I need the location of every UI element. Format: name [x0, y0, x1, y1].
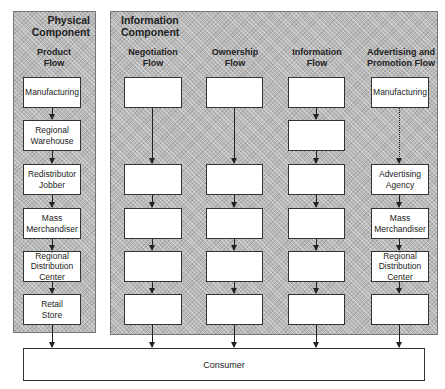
- product-retail-store-box: Retail Store: [23, 294, 81, 325]
- information-box: [288, 251, 345, 282]
- arrow-down: [399, 195, 400, 207]
- arrow-down: [52, 239, 53, 250]
- information-box: [288, 77, 345, 108]
- arrow-down: [52, 195, 53, 207]
- negotiation-box: [124, 294, 182, 325]
- product-mass-merchandiser-box: Mass Merchandiser: [23, 208, 81, 239]
- arrow-down: [399, 282, 400, 293]
- arrow-down: [152, 239, 153, 250]
- ownership-flow-header: Ownership Flow: [200, 47, 270, 69]
- arrow-down: [52, 325, 53, 347]
- negotiation-box: [124, 164, 182, 195]
- advertising-box: [371, 294, 429, 325]
- negotiation-box: [124, 251, 182, 282]
- ownership-box: [206, 77, 263, 108]
- consumer-label: Consumer: [203, 360, 245, 370]
- product-flow-header: Product Flow: [14, 47, 94, 69]
- arrow-down: [316, 151, 317, 163]
- product-manufacturing-box: Manufacturing: [23, 77, 81, 108]
- advertising-promotion-flow-header: Advertising and Promotion Flow: [362, 47, 440, 69]
- arrow-down: [234, 108, 235, 163]
- product-redistributor-jobber-box: Redistributor Jobber: [23, 164, 81, 195]
- advertising-regional-distribution-center-box: Regional Distribution Center: [371, 251, 429, 282]
- arrow-down: [234, 239, 235, 250]
- ownership-box: [206, 164, 263, 195]
- arrow-down: [234, 325, 235, 347]
- advertising-agency-box: Advertising Agency: [371, 164, 429, 195]
- information-box: [288, 208, 345, 239]
- arrow-down: [316, 195, 317, 207]
- information-box: [288, 164, 345, 195]
- ownership-box: [206, 208, 263, 239]
- ownership-box: [206, 294, 263, 325]
- arrow-down: [399, 325, 400, 347]
- arrow-down-dotted: [399, 108, 400, 163]
- consumer-box: Consumer: [23, 348, 425, 381]
- product-regional-distribution-center-box: Regional Distribution Center: [23, 251, 81, 282]
- negotiation-box: [124, 77, 182, 108]
- arrow-down: [399, 239, 400, 250]
- arrow-down: [316, 282, 317, 293]
- arrow-down: [152, 282, 153, 293]
- negotiation-flow-header: Negotiation Flow: [118, 47, 188, 69]
- information-box: [288, 294, 345, 325]
- information-box: [288, 120, 345, 151]
- arrow-down: [316, 325, 317, 347]
- arrow-down: [316, 239, 317, 250]
- arrow-down: [152, 325, 153, 347]
- arrow-down: [52, 151, 53, 163]
- arrow-down: [152, 195, 153, 207]
- arrow-down: [234, 282, 235, 293]
- arrow-down: [52, 108, 53, 119]
- product-regional-warehouse-box: Regional Warehouse: [23, 120, 81, 151]
- physical-component-title: Physical Component: [20, 14, 90, 38]
- information-flow-header: Information Flow: [282, 47, 352, 69]
- advertising-mass-merchandiser-box: Mass Merchandiser: [371, 208, 429, 239]
- advertising-manufacturing-box: Manufacturing: [371, 77, 429, 108]
- information-component-title: Information Component: [121, 14, 179, 38]
- ownership-box: [206, 251, 263, 282]
- arrow-down: [52, 282, 53, 293]
- arrow-down: [316, 108, 317, 119]
- arrow-down: [152, 108, 153, 163]
- arrow-down: [234, 195, 235, 207]
- negotiation-box: [124, 208, 182, 239]
